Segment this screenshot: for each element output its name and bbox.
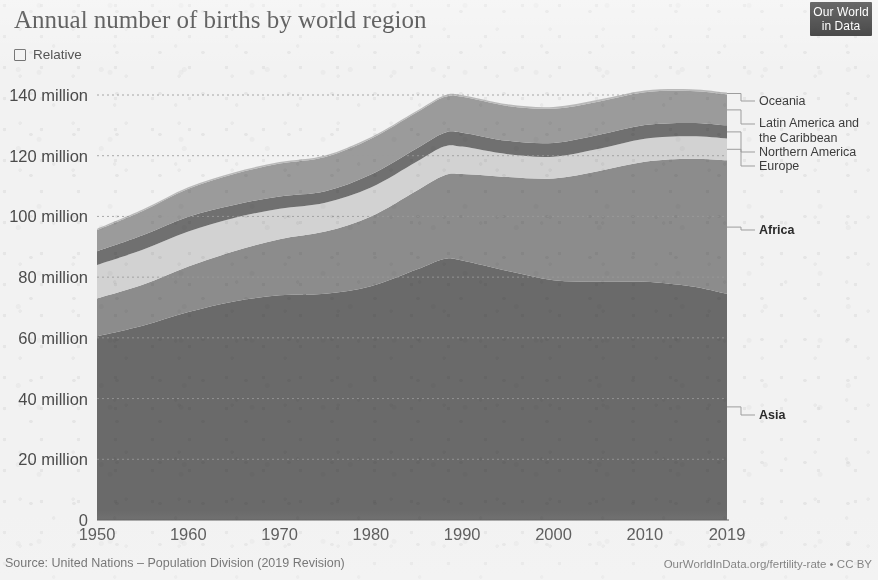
- y-axis-tick-label: 60 million: [18, 328, 88, 347]
- legend-label-northern-america[interactable]: Northern America: [759, 145, 856, 160]
- y-axis-tick-label: 120 million: [9, 146, 88, 165]
- legend-label-africa[interactable]: Africa: [759, 223, 794, 238]
- legend-connector-oceania: [727, 94, 755, 102]
- y-axis-tick-label: 100 million: [9, 207, 88, 226]
- y-axis-tick-label: 20 million: [18, 450, 88, 469]
- legend-connector-latin-america-and-the-caribbean: [727, 110, 755, 124]
- stacked-area-chart: [0, 0, 878, 580]
- x-axis-tick-label: 1980: [353, 525, 390, 544]
- legend-connector-asia: [727, 407, 755, 415]
- x-axis-tick-label: 1970: [261, 525, 298, 544]
- source-note: Source: United Nations – Population Divi…: [5, 556, 345, 570]
- x-axis-tick-label: 2010: [626, 525, 663, 544]
- y-axis-tick-label: 140 million: [9, 86, 88, 105]
- legend-label-oceania[interactable]: Oceania: [759, 94, 806, 109]
- y-axis-tick-label: 80 million: [18, 268, 88, 287]
- x-axis-tick-label: 2019: [709, 525, 746, 544]
- x-axis-tick-label: 2000: [535, 525, 572, 544]
- x-axis-tick-label: 1950: [79, 525, 116, 544]
- y-axis-tick-label: 40 million: [18, 389, 88, 408]
- legend-label-asia[interactable]: Asia: [759, 408, 785, 423]
- legend-connector-africa: [727, 227, 755, 230]
- x-axis-tick-label: 1960: [170, 525, 207, 544]
- x-axis-tick-label: 1990: [444, 525, 481, 544]
- legend-label-europe[interactable]: Europe: [759, 159, 799, 174]
- legend-label-latin-america-and-the-caribbean[interactable]: Latin America and the Caribbean: [759, 116, 878, 145]
- attribution-note: OurWorldInData.org/fertility-rate • CC B…: [664, 558, 872, 570]
